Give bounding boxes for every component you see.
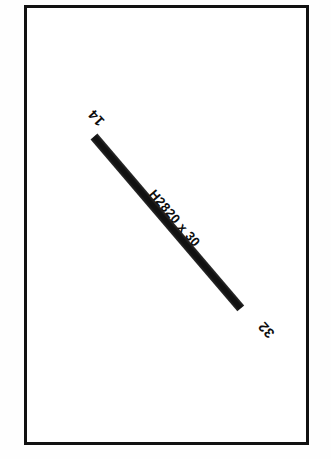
drawing-canvas: H2820 x 30 14 32 — [0, 0, 331, 459]
structural-member-bar — [91, 134, 245, 312]
member-designation-label: H2820 x 30 — [146, 187, 203, 250]
node-number-end: 32 — [255, 319, 278, 342]
node-number-start: 14 — [85, 107, 108, 130]
drawing-sheet: H2820 x 30 14 32 — [0, 0, 331, 459]
